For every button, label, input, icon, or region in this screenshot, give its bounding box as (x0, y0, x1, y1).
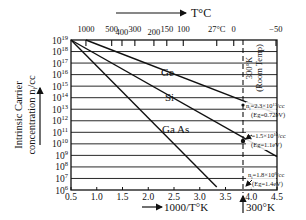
y-tick-label: 1016 (52, 68, 69, 80)
svg-text:Intrinsic Carrier: Intrinsic Carrier (13, 81, 24, 149)
y-tick-label: 1011 (52, 126, 68, 138)
x-tick-label: 0.5 (65, 192, 77, 202)
x-tick-label: 2.0 (142, 192, 154, 202)
y-tick-label: 1010 (52, 137, 68, 149)
bottom-axis-title: 1000/T°K (164, 201, 208, 213)
y-tick-label: 108 (55, 160, 68, 172)
x-tick-label: 1.5 (117, 192, 129, 202)
top-tick-label: 27°C (208, 24, 226, 34)
y-tick-label: 107 (55, 172, 69, 184)
svg-text:concentration ni/cc: concentration ni/cc (26, 75, 39, 155)
svg-text:(Eg=0.72eV): (Eg=0.72eV) (251, 111, 285, 119)
top-tick-label: 100 (177, 24, 190, 34)
top-axis-title: T°C (191, 6, 211, 20)
series-label-si: Si (165, 91, 174, 103)
room-temp-label: 300°K (244, 56, 254, 79)
ge-annotation: ni=2.3×1013/cc (Eg=0.72eV) (246, 102, 285, 121)
x-tick-label: 1.0 (91, 192, 103, 202)
y-tick-label: 1014 (52, 91, 69, 103)
x-tick-label: 3.5 (220, 192, 232, 202)
y-tick-label: 1017 (52, 57, 69, 69)
series-label-ge: Ge (161, 66, 174, 78)
si-300k-point (241, 139, 245, 143)
series-label-gaas: Ga As (162, 123, 189, 135)
room-temp-sublabel: (Room Temp) (254, 44, 264, 92)
y-tick-label: 1019 (52, 34, 68, 46)
x-axis-ticks: 0.51.01.52.02.53.03.54.04.5 (65, 187, 283, 202)
y-tick-label: 1013 (52, 103, 68, 115)
svg-text:300°K: 300°K (244, 56, 254, 79)
svg-text:(Eg=1.1eV): (Eg=1.1eV) (251, 141, 282, 149)
svg-text:(Room Temp): (Room Temp) (254, 44, 264, 92)
y-tick-label: 109 (55, 149, 68, 161)
carrier-concentration-chart: 1019101810171016101510141013101210111010… (0, 0, 306, 220)
ge-300k-point (241, 103, 244, 106)
top-axis-ticks: 100050040030020015010027°C0−50 (77, 24, 282, 46)
top-tick-label: 400 (116, 27, 129, 37)
y-tick-label: 1012 (52, 114, 68, 126)
y-tick-label: 1018 (52, 45, 68, 57)
y-tick-label: 1015 (52, 80, 68, 92)
top-tick-label: 200 (148, 27, 161, 37)
gaas-annotation: ni=1.8×106/cc (Eg=1.4eV) (246, 171, 284, 190)
300k-marker-label: 300°K (246, 201, 275, 213)
top-tick-label: 300 (128, 24, 141, 34)
top-tick-label: −50 (269, 24, 282, 34)
y-axis-ticks: 1019101810171016101510141013101210111010… (52, 34, 69, 196)
svg-text:(Eg=1.4eV): (Eg=1.4eV) (252, 180, 283, 188)
top-tick-label: 1000 (77, 24, 94, 34)
top-tick-label: 0 (232, 24, 236, 34)
y-axis-title-line2: concentration ni/cc (26, 75, 39, 155)
si-annotation: ni=1.5×1010/cc (Eg=1.1eV) (246, 132, 286, 151)
y-axis-title: Intrinsic Carrier (13, 81, 24, 149)
top-tick-label: 150 (160, 24, 173, 34)
